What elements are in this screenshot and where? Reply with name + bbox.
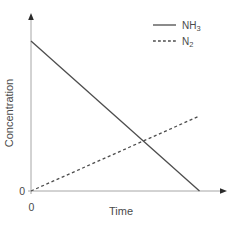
nh3-concentration-line	[31, 41, 200, 191]
y-axis-arrow-icon	[28, 13, 34, 20]
legend-n2-label-subscript: 2	[189, 40, 193, 49]
legend: NH3 N2	[153, 20, 201, 50]
legend-nh3-label-base: NH	[182, 20, 196, 31]
reaction-concentration-chart: 0 0 Time Concentration NH3 N2	[0, 0, 238, 226]
y-axis-zero-label: 0	[19, 185, 25, 197]
y-axis-title: Concentration	[3, 79, 15, 148]
chart-canvas: 0 0 Time Concentration NH3 N2	[0, 0, 238, 226]
legend-nh3-label-subscript: 3	[196, 24, 200, 33]
x-axis-title: Time	[109, 205, 133, 217]
legend-n2-label-base: N	[182, 36, 189, 47]
x-axis-zero-label: 0	[29, 201, 35, 213]
legend-n2-label: N2	[182, 36, 193, 50]
x-axis-arrow-icon	[220, 188, 227, 194]
legend-nh3-label: NH3	[182, 20, 201, 34]
n2-concentration-line	[31, 116, 200, 191]
